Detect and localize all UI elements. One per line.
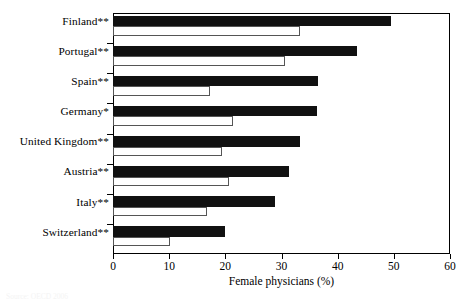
y-axis-tick [107,224,113,225]
bar-light [113,116,233,126]
category-label: Finland** [0,15,109,27]
y-axis-tick [107,103,113,104]
y-axis-tick [107,43,113,44]
x-axis-tick [338,254,339,259]
category-label: Italy** [0,196,109,208]
x-axis-tick [169,254,170,259]
x-axis-tick-label: 10 [149,260,189,273]
bar-light [113,86,210,96]
x-axis-tick-label: 20 [205,260,245,273]
bar-dark [113,226,225,237]
bar-dark [113,136,300,147]
bar-light [113,207,207,217]
y-axis-tick [107,134,113,135]
x-axis-tick [225,254,226,259]
bar-dark [113,46,357,57]
category-label: Germany* [0,105,109,117]
category-label: Portugal** [0,45,109,57]
x-axis-tick-label: 40 [318,260,358,273]
y-axis-tick [107,194,113,195]
clipped-title-sliver [0,0,463,8]
bar-light [113,237,170,247]
bar-light [113,147,222,157]
category-label: Spain** [0,75,109,87]
x-axis-tick-label: 60 [430,260,463,273]
category-label: Switzerland** [0,226,109,238]
x-axis-tick [282,254,283,259]
x-axis-tick [113,254,114,259]
bar-dark [113,106,317,117]
x-axis-tick-label: 0 [93,260,133,273]
figure-horizontal-bar-chart: Finland**Portugal**Spain**Germany*United… [0,0,463,300]
x-axis-tick-label: 30 [262,260,302,273]
bar-light [113,26,300,36]
category-label: United Kingdom** [0,135,109,147]
bar-light [113,177,229,187]
x-axis-tick [394,254,395,259]
y-axis-tick [107,164,113,165]
x-axis-tick [450,254,451,259]
y-axis-tick [107,73,113,74]
bars-layer [113,13,450,254]
x-axis-title: Female physicians (%) [113,275,450,288]
bar-dark [113,196,275,207]
bar-dark [113,16,391,27]
x-axis-tick-label: 50 [374,260,414,273]
bar-dark [113,166,289,177]
clipped-source-note: Source: OECD 2006 [6,293,306,300]
category-label: Austria** [0,165,109,177]
category-axis-labels: Finland**Portugal**Spain**Germany*United… [0,13,109,254]
bar-light [113,56,285,66]
bar-dark [113,76,318,87]
